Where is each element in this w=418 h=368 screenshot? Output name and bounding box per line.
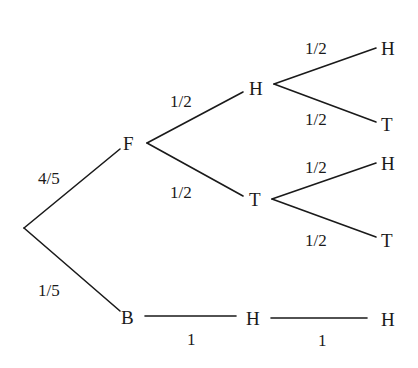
prob-ft-t: 1/2 <box>305 231 327 250</box>
node-bhh: H <box>381 309 395 330</box>
prob-root-b: 1/5 <box>38 281 60 300</box>
node-bh: H <box>246 308 260 329</box>
prob-root-f: 4/5 <box>38 169 60 188</box>
node-fth: H <box>381 153 395 174</box>
node-fh: H <box>249 78 263 99</box>
edge-root-to-f <box>24 149 120 228</box>
prob-ft-h: 1/2 <box>305 158 327 177</box>
tree-svg: F B H T H T H T H H 4/5 1/5 1/2 1/2 1/2 … <box>0 0 418 368</box>
edge-f-to-h <box>147 92 243 143</box>
probability-tree-diagram: F B H T H T H T H H 4/5 1/5 1/2 1/2 1/2 … <box>0 0 418 368</box>
edge-f-to-t <box>147 143 243 196</box>
node-fht: T <box>381 114 393 135</box>
prob-f-h: 1/2 <box>170 92 192 111</box>
node-f: F <box>123 133 134 154</box>
node-b: B <box>121 307 134 328</box>
prob-fh-h: 1/2 <box>305 39 327 58</box>
node-ft: T <box>249 189 261 210</box>
prob-fh-t: 1/2 <box>305 110 327 129</box>
node-ftt: T <box>381 230 393 251</box>
prob-f-t: 1/2 <box>170 183 192 202</box>
prob-bh-h: 1 <box>318 331 327 350</box>
prob-b-h: 1 <box>187 330 196 349</box>
node-fhh: H <box>381 38 395 59</box>
